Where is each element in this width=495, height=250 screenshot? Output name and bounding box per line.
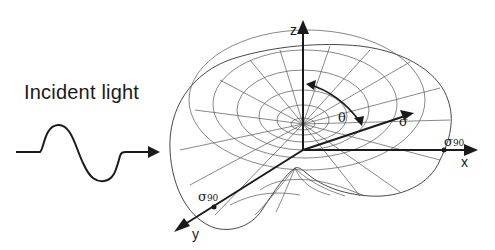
incident-wave	[16, 125, 150, 181]
incident-arrow-head	[148, 146, 160, 158]
y-axis	[182, 150, 303, 226]
z-arrow-head	[297, 20, 309, 34]
incident-light-label: Incident light	[24, 81, 139, 104]
theta-arrow-head-top	[306, 80, 316, 90]
scattering-diagram	[0, 0, 495, 250]
sigma-symbol: σ	[198, 189, 207, 204]
sigma-symbol: σ	[444, 134, 453, 149]
sigma-subscript: 90	[207, 193, 218, 203]
theta-label: θ	[338, 110, 346, 125]
sigma90-y-point	[212, 205, 217, 210]
sigma90-x-label: σ90	[444, 134, 464, 149]
z-axis-label: z	[290, 22, 297, 38]
sigma-label: σ	[399, 114, 408, 129]
x-axis-label: x	[461, 154, 468, 170]
sigma-subscript: 90	[453, 138, 464, 148]
sigma-direction	[303, 115, 408, 150]
y-arrow-head	[174, 218, 190, 232]
y-axis-label: y	[192, 226, 199, 242]
sigma90-y-label: σ90	[198, 189, 218, 204]
